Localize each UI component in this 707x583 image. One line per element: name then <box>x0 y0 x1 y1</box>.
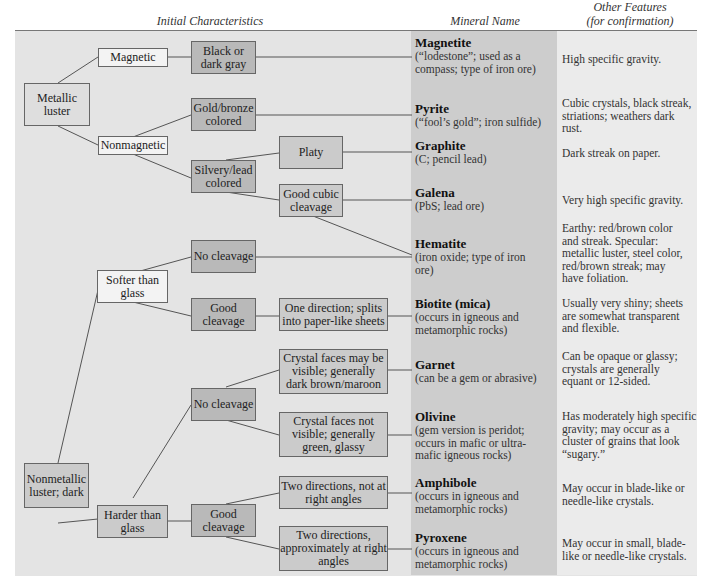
box-magnetic: Magnetic <box>98 48 168 67</box>
mineral-name: Garnet <box>415 358 557 372</box>
mineral-name: Magnetite <box>415 36 557 50</box>
features-galena: Very high specific gravity. <box>562 194 697 207</box>
features-garnet: Can be opaque or glassy; crystals are ge… <box>562 350 692 388</box>
box-softer-than-glass: Softer than glass <box>97 270 168 303</box>
mineral-name: Olivine <box>415 410 533 424</box>
box-hard-good-cleavage: Good cleavage <box>191 504 256 537</box>
mineral-desc: (occurs in igneous and metamorphic rocks… <box>415 311 519 336</box>
mineral-desc: (iron oxide; type of iron ore) <box>415 251 526 276</box>
mineral-biotite: Biotite (mica)(occurs in igneous and met… <box>415 297 540 336</box>
features-amphibole: May occur in blade-like or needle-like c… <box>562 482 690 507</box>
mineral-name: Biotite (mica) <box>415 297 540 311</box>
mineral-name: Pyroxene <box>415 531 540 545</box>
mineral-name: Graphite <box>415 139 557 153</box>
box-soft-good-cleavage: Good cleavage <box>191 298 256 331</box>
mineral-name: Hematite <box>415 237 535 251</box>
mineral-name: Galena <box>415 186 557 200</box>
mineral-name: Pyrite <box>415 102 557 116</box>
box-one-direction: One direction; splits into paper-like sh… <box>279 298 388 331</box>
features-biotite: Usually very shiny; sheets are somewhat … <box>562 297 697 335</box>
features-hematite: Earthy: red/brown color and streak. Spec… <box>562 222 690 285</box>
box-soft-no-cleavage: No cleavage <box>191 240 256 273</box>
mineral-desc: (can be a gem or abrasive) <box>415 372 537 384</box>
features-pyroxene: May occur in small, blade-like or needle… <box>562 537 697 562</box>
box-crystal-faces-not-visible: Crystal faces not visible; generally gre… <box>279 412 388 457</box>
mineral-desc: (“fool’s gold”; iron sulfide) <box>415 116 541 128</box>
mineral-desc: (occurs in igneous and metamorphic rocks… <box>415 545 519 570</box>
features-graphite: Dark streak on paper. <box>562 147 697 160</box>
mineral-galena: Galena(PbS; lead ore) <box>415 186 557 213</box>
mineral-name: Amphibole <box>415 476 540 490</box>
mineral-pyrite: Pyrite(“fool’s gold”; iron sulfide) <box>415 102 557 129</box>
mineral-graphite: Graphite(C; pencil lead) <box>415 139 557 166</box>
mineral-amphibole: Amphibole(occurs in igneous and metamorp… <box>415 476 540 515</box>
box-platy: Platy <box>279 136 343 169</box>
features-pyrite: Cubic crystals, black streak, striations… <box>562 97 697 135</box>
box-nonmagnetic: Nonmagnetic <box>98 136 168 155</box>
mineral-hematite: Hematite(iron oxide; type of iron ore) <box>415 237 535 276</box>
box-nonmetallic-luster: Nonmetallic luster; dark <box>24 463 89 508</box>
mineral-garnet: Garnet(can be a gem or abrasive) <box>415 358 557 385</box>
mineral-desc: (PbS; lead ore) <box>415 200 484 212</box>
box-metallic-luster: Metallic luster <box>24 83 90 126</box>
features-olivine: Has moderately high specific gravity; ma… <box>562 410 697 460</box>
mineral-desc: (“lodestone”; used as a compass; type of… <box>415 50 536 75</box>
box-silvery-lead-colored: Silvery/lead colored <box>191 160 256 193</box>
box-two-directions-right: Two directions, approximately at right a… <box>279 526 388 571</box>
mineral-magnetite: Magnetite(“lodestone”; used as a compass… <box>415 36 557 75</box>
mineral-desc: (gem version is peridot; occurs in mafic… <box>415 424 526 461</box>
features-magnetite: High specific gravity. <box>562 53 697 66</box>
mineral-pyroxene: Pyroxene(occurs in igneous and metamorph… <box>415 531 540 570</box>
box-two-directions-not-right: Two directions, not at right angles <box>279 476 388 509</box>
mineral-olivine: Olivine(gem version is peridot; occurs i… <box>415 410 533 462</box>
box-hard-no-cleavage: No cleavage <box>191 388 256 421</box>
box-harder-than-glass: Harder than glass <box>97 505 168 538</box>
box-good-cubic-cleavage: Good cubic cleavage <box>279 184 343 217</box>
box-gold-bronze-colored: Gold/bronze colored <box>191 98 256 131</box>
mineral-desc: (C; pencil lead) <box>415 153 487 165</box>
box-crystal-faces-visible: Crystal faces may be visible; generally … <box>279 349 388 394</box>
mineral-desc: (occurs in igneous and metamorphic rocks… <box>415 490 519 515</box>
box-black-dark-gray: Black or dark gray <box>191 41 256 74</box>
